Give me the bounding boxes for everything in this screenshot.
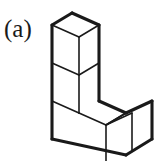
polycube-illustration bbox=[0, 0, 166, 161]
figure-canvas: (a) bbox=[0, 0, 166, 161]
cube-faces-group bbox=[52, 13, 152, 161]
